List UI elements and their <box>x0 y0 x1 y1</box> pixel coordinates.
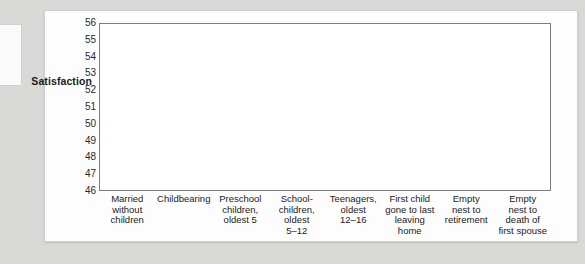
x-category-label: Preschoolchildren,oldest 5 <box>212 194 269 226</box>
x-category-label: First childgone to lastleavinghome <box>382 194 439 236</box>
plot-area <box>99 23 551 191</box>
x-category-label: Marriedwithoutchildren <box>99 194 156 226</box>
y-tick-label: 46 <box>72 186 96 196</box>
y-axis-tick-labels: 4647484950515253545556 <box>72 23 96 191</box>
y-tick-label: 56 <box>72 18 96 28</box>
plot-frame <box>99 23 551 191</box>
x-category-label: Teenagers,oldest12–16 <box>325 194 382 226</box>
y-tick-label: 51 <box>72 102 96 112</box>
y-tick-label: 54 <box>72 52 96 62</box>
y-tick-label: 53 <box>72 68 96 78</box>
x-category-label: Emptynest todeath offirst spouse <box>495 194 552 236</box>
x-category-label: Childbearing <box>156 194 213 205</box>
y-tick-label: 50 <box>72 119 96 129</box>
y-tick-label: 55 <box>72 35 96 45</box>
x-axis-category-labels: MarriedwithoutchildrenChildbearingPresch… <box>99 194 551 256</box>
y-tick-label: 52 <box>72 85 96 95</box>
y-tick-label: 47 <box>72 169 96 179</box>
y-tick-label: 48 <box>72 152 96 162</box>
y-tick-label: 49 <box>72 136 96 146</box>
x-category-label: School-children,oldest5–12 <box>269 194 326 236</box>
x-category-label: Emptynest toretirement <box>438 194 495 226</box>
page-background: Satisfaction 4647484950515253545556 Marr… <box>0 0 585 264</box>
